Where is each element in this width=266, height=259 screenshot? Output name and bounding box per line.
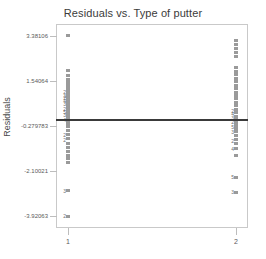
x-axis-tick-label: 2 [226, 238, 246, 245]
y-axis-tick-label: -0.279783 [4, 123, 48, 129]
data-point [234, 191, 238, 194]
y-axis-tick [50, 126, 57, 127]
chart-title: Residuals vs. Type of putter [0, 7, 266, 19]
y-axis-tick-label: 1.54064 [4, 78, 48, 84]
y-axis-tick [50, 36, 57, 37]
data-point-count-label: 2 [52, 213, 66, 219]
x-axis-tick-label: 1 [58, 238, 78, 245]
data-point-count-label: 2 [220, 138, 234, 144]
data-point [66, 146, 70, 149]
data-point [66, 34, 70, 37]
data-point [234, 154, 238, 157]
reference-line [56, 119, 248, 120]
y-axis-tick [50, 171, 57, 172]
data-point [234, 147, 238, 150]
x-axis-tick [68, 228, 69, 235]
data-point [66, 161, 70, 164]
data-point [66, 157, 70, 160]
data-point [66, 137, 70, 140]
data-point [234, 138, 238, 141]
data-point-count-label: 2 [52, 137, 66, 143]
data-point-count-label: 3 [220, 129, 234, 135]
y-axis-title: Residuals [2, 87, 12, 147]
data-point [66, 215, 70, 218]
data-point [234, 66, 238, 69]
data-point [234, 43, 238, 46]
data-point [234, 39, 238, 42]
residual-plot-chart: Residuals vs. Type of putter Residuals 3… [0, 0, 266, 259]
data-point [66, 154, 70, 157]
data-point [66, 133, 70, 136]
x-axis-tick [236, 228, 237, 235]
data-point [234, 47, 238, 50]
y-axis-tick-label: -2.10021 [4, 168, 48, 174]
data-point [66, 189, 70, 192]
y-axis-tick [50, 81, 57, 82]
y-axis-tick-label: -3.92063 [4, 213, 48, 219]
data-point [66, 74, 70, 77]
data-point-count-label: 3 [220, 189, 234, 195]
y-axis-tick-label: 3.38106 [4, 33, 48, 39]
data-point-count-label: 5 [220, 174, 234, 180]
data-point [234, 176, 238, 179]
data-point [66, 150, 70, 153]
data-point [234, 134, 238, 137]
data-point [234, 130, 238, 133]
data-point [234, 142, 238, 145]
data-point [234, 51, 238, 54]
data-point-count-label: 4 [220, 146, 234, 152]
data-point [66, 142, 70, 145]
data-point-count-label: 3 [52, 188, 66, 194]
data-point [66, 129, 70, 132]
data-point [234, 55, 238, 58]
data-point [66, 69, 70, 72]
data-point [66, 125, 70, 128]
